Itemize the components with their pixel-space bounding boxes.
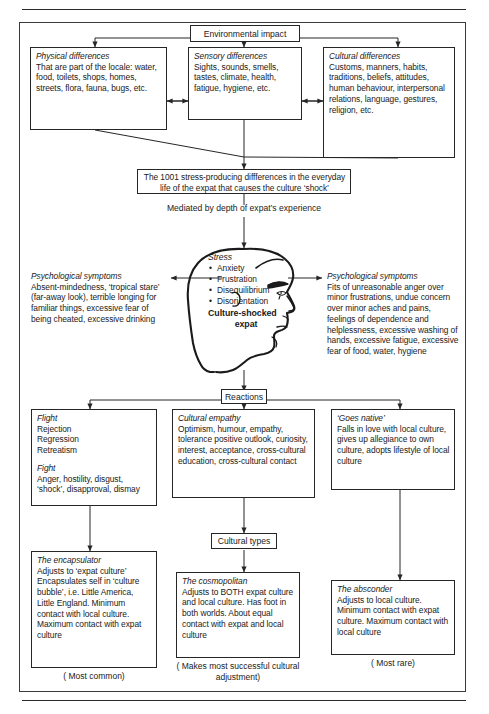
spacer (37, 456, 152, 463)
head-stress-content: Stress Anxiety Frustration Disequilibriu… (208, 252, 294, 330)
cosmopolitan-body: Adjusts to BOTH expat culture and local … (182, 587, 295, 641)
node-symptoms-left: Psychological symptoms Absent-mindedness… (31, 271, 161, 325)
encapsulator-body: Adjusts to ‘expat culture’ Encapsulates … (37, 566, 152, 641)
node-reactions[interactable]: Reactions (221, 389, 267, 404)
node-the-absconder[interactable]: The absconder Adjusts to local culture. … (331, 580, 455, 655)
encapsulator-heading: The encapsulator (37, 555, 152, 566)
node-environmental-impact-label: Environmental impact (204, 29, 287, 39)
diagram-canvas: Environmental impact Physical difference… (0, 0, 489, 714)
culture-shocked-expat-line2: expat (208, 319, 284, 330)
label-mediated-by-experience: Mediated by depth of expat’s experience (144, 203, 344, 214)
node-sensory-differences[interactable]: Sensory differences Sights, sounds, smel… (188, 47, 302, 120)
flight-item: Rejection (37, 424, 152, 435)
cultural-empathy-heading: Cultural empathy (178, 413, 310, 424)
node-environmental-impact[interactable]: Environmental impact (190, 25, 300, 42)
symptoms-right-body: Fits of unreasonable anger over minor fr… (327, 282, 460, 357)
flight-heading: Flight (37, 413, 152, 424)
goes-native-heading: ‘Goes native’ (337, 413, 450, 424)
cosmopolitan-caption: ( Makes most successful cultural adjustm… (166, 661, 310, 682)
symptoms-right-heading: Psychological symptoms (327, 271, 460, 282)
symptoms-left-heading: Psychological symptoms (31, 271, 161, 282)
stress-heading: Stress (208, 252, 294, 263)
stress-item: Disequilibrium (217, 285, 294, 296)
physical-differences-heading: Physical differences (36, 51, 162, 62)
node-reactions-label: Reactions (225, 392, 263, 402)
physical-differences-body: That are part of the locale: water, food… (36, 62, 162, 94)
stress-item: Frustration (217, 274, 294, 285)
culture-shocked-expat-line1: Culture-shocked (208, 308, 294, 319)
stress-item: Anxiety (217, 263, 294, 274)
flight-item: Regression (37, 434, 152, 445)
node-stress-producing-differences[interactable]: The 1001 stress-producing diffferences i… (137, 169, 351, 194)
stress-producing-differences-text: The 1001 stress-producing diffferences i… (143, 172, 346, 193)
node-physical-differences[interactable]: Physical differences That are part of th… (30, 47, 167, 130)
flight-item: Retreatism (37, 445, 152, 456)
stress-item: Disorientation (217, 296, 294, 307)
node-cultural-empathy[interactable]: Cultural empathy Optimism, humour, empat… (172, 409, 315, 498)
fight-heading: Fight (37, 463, 152, 474)
node-goes-native[interactable]: ‘Goes native’ Falls in love with local c… (331, 409, 455, 490)
fight-body: Anger, hostility, disgust, ‘shock’, disa… (37, 474, 152, 495)
node-flight-fight[interactable]: Flight Rejection Regression Retreatism F… (31, 409, 157, 506)
page-rule-bottom (22, 700, 466, 701)
node-the-encapsulator[interactable]: The encapsulator Adjusts to ‘expat cultu… (31, 551, 157, 668)
node-cultural-types-label: Cultural types (218, 536, 271, 546)
cultural-differences-body: Customs, manners, habits, traditions, be… (329, 62, 450, 116)
page-rule-top (22, 9, 466, 10)
cultural-differences-heading: Cultural differences (329, 51, 450, 62)
symptoms-left-body: Absent-mindedness, ‘tropical stare’ (far… (31, 282, 161, 325)
encapsulator-caption: ( Most common) (31, 671, 157, 682)
node-cultural-types[interactable]: Cultural types (211, 533, 277, 549)
sensory-differences-heading: Sensory differences (194, 51, 297, 62)
node-symptoms-right: Psychological symptoms Fits of unreasona… (327, 271, 460, 357)
node-the-cosmopolitan[interactable]: The cosmopolitan Adjusts to BOTH expat c… (176, 572, 300, 658)
absconder-body: Adjusts to local culture. Minimum contac… (337, 595, 450, 638)
stress-list: Anxiety Frustration Disequilibrium Disor… (208, 263, 294, 308)
sensory-differences-body: Sights, sounds, smells, tastes, climate,… (194, 62, 297, 94)
cosmopolitan-heading: The cosmopolitan (182, 576, 295, 587)
absconder-caption: ( Most rare) (331, 658, 455, 669)
node-cultural-differences[interactable]: Cultural differences Customs, manners, h… (323, 47, 455, 158)
goes-native-body: Falls in love with local culture, gives … (337, 424, 450, 467)
absconder-heading: The absconder (337, 584, 450, 595)
cultural-empathy-body: Optimism, humour, empathy, tolerance pos… (178, 424, 310, 467)
